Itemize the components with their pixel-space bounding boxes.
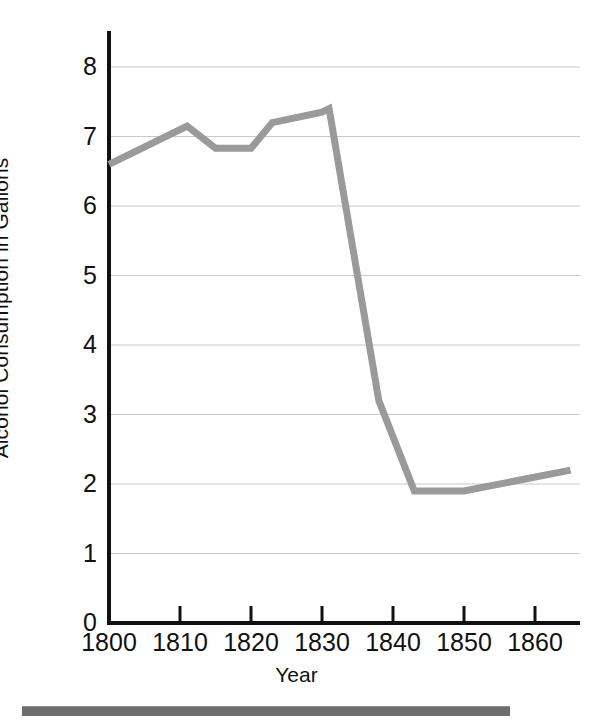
- y-axis-tick-label: 6: [57, 193, 97, 218]
- x-axis-tick-label: 1860: [480, 630, 590, 655]
- y-axis-tick-label: 5: [57, 263, 97, 288]
- chart-figure: Alcohol Consumption in Gallons 012345678…: [0, 0, 593, 722]
- y-axis-tick-label: 2: [57, 471, 97, 496]
- data-series-line: [109, 109, 571, 491]
- bottom-rule: [22, 706, 510, 716]
- y-axis-tick-label: 1: [57, 541, 97, 566]
- x-axis-title: Year: [0, 663, 593, 687]
- y-axis-tick-label: 7: [57, 124, 97, 149]
- y-axis-tick-label: 3: [57, 402, 97, 427]
- x-axis-ticks: [180, 606, 535, 623]
- y-axis-tick-label: 8: [57, 54, 97, 79]
- y-axis-tick-label: 4: [57, 332, 97, 357]
